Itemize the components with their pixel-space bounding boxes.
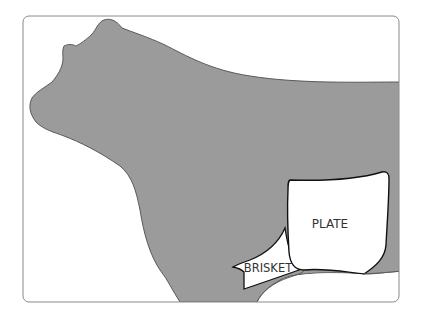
beef-cuts-diagram: PLATE BRISKET — [0, 0, 428, 327]
brisket-label: BRISKET — [244, 261, 293, 275]
plate-label: PLATE — [312, 217, 348, 231]
